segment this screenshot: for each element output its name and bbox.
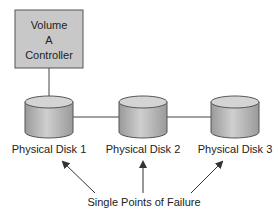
- controller-label: Volume A Controller: [15, 18, 83, 63]
- controller-line-3: Controller: [15, 48, 83, 63]
- disk-2-icon: [119, 96, 167, 138]
- diagram: Volume A Controller Physical Disk 1 Phys…: [0, 0, 278, 217]
- controller-line-2: A: [15, 33, 83, 48]
- disk-3-label: Physical Disk 3: [190, 143, 278, 155]
- disk-3-icon: [211, 96, 259, 138]
- disk-1-icon: [25, 96, 73, 138]
- arrow-1: [63, 162, 95, 193]
- disk-1-label: Physical Disk 1: [4, 143, 94, 155]
- disk-2-label: Physical Disk 2: [98, 143, 188, 155]
- arrow-3: [191, 162, 222, 193]
- caption: Single Points of Failure: [79, 196, 209, 208]
- controller-line-1: Volume: [15, 18, 83, 33]
